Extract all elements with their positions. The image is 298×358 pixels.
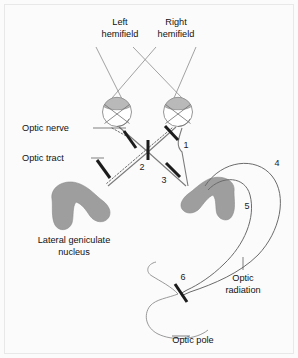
optic-nerve-label: Optic nerve [22,123,69,133]
lesion-number-6: 6 [180,272,185,282]
left-lgn-shape [52,182,110,230]
lesion-number-5: 5 [244,201,249,211]
right-hemifield-label-line1: Right [165,17,187,27]
right-lgn-shape [181,177,235,220]
optic-pole-label: Optic pole [172,335,213,345]
left-hemifield-label-line2: hemifield [102,29,139,39]
right-hemifield-label-line2: hemifield [158,29,195,39]
leader-lines [91,128,243,336]
lgn-label-line1: Lateral geniculate [38,235,111,245]
lesion-number-1: 1 [183,140,188,150]
lgn-label-line2: nucleus [58,247,90,257]
right-lateral-geniculate-nucleus [181,177,235,220]
figure-frame: Left hemifield Right hemifield [0,0,298,358]
right-eye-lens [165,97,192,109]
optic-radiation-label-line1: Optic [232,273,254,283]
right-nerve-to-chiasm [148,127,176,152]
optic-tract-label: Optic tract [22,153,64,163]
left-lateral-geniculate-nucleus [52,182,110,230]
optic-radiation-label-line2: radiation [225,285,260,295]
ray-right-inner [174,47,196,98]
ray-right-outer [133,47,183,99]
lesion-marker-tract-left [97,160,110,178]
lesion-number-4: 4 [274,158,279,168]
hemifield-rays [96,47,196,99]
ray-left-inner [112,47,156,98]
right-eye [164,97,193,126]
left-hemifield-label-line1: Left [112,17,128,27]
visual-pathway-diagram: Left hemifield Right hemifield [0,0,298,358]
chiasm-to-right-lgn [148,152,186,186]
lesion-markers [97,126,187,302]
left-eye-lens [104,97,131,109]
occipital-pole [146,262,208,339]
left-nerve-to-chiasm [119,127,148,152]
optic-pole-outline [146,262,208,339]
left-eye [103,97,132,126]
lesion-number-2: 2 [139,162,144,172]
lesion-number-3: 3 [161,175,166,185]
